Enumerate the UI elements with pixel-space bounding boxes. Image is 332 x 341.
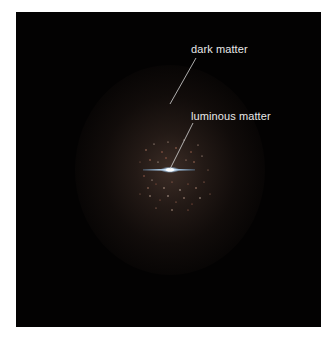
star-field bbox=[140, 139, 211, 210]
dark-matter-leader-line bbox=[170, 58, 196, 104]
luminous-galaxy-disk bbox=[143, 167, 195, 173]
luminous-matter-label: luminous matter bbox=[191, 110, 271, 122]
luminous-matter-leader-line bbox=[170, 123, 193, 169]
dark-matter-label: dark matter bbox=[191, 43, 248, 55]
diagram-graphics bbox=[16, 12, 321, 327]
diagram-panel: dark matter luminous matter bbox=[16, 12, 321, 327]
